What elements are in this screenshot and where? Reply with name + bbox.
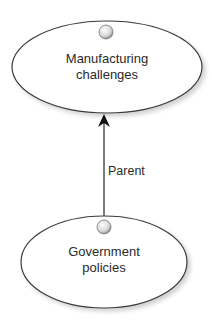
label-line-1: Manufacturing	[42, 51, 172, 67]
label-line-1: Government	[39, 244, 169, 260]
label-line-2: policies	[39, 260, 169, 276]
node-label-manufacturing: Manufacturing challenges	[42, 51, 172, 83]
usecase-ball-icon	[99, 25, 113, 39]
label-line-2: challenges	[42, 67, 172, 83]
usecase-ball-icon	[97, 220, 111, 234]
edge-label-parent: Parent	[108, 164, 145, 178]
node-label-government: Government policies	[39, 244, 169, 276]
